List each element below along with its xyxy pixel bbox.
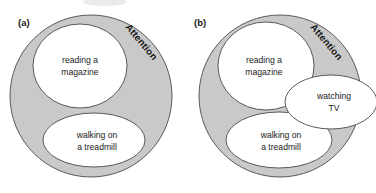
reading-a-magazine-line2-b: magazine bbox=[245, 67, 282, 77]
reading-a-magazine-line2-a: magazine bbox=[61, 67, 98, 77]
walking-on-a-treadmill-line2-a: a treadmill bbox=[77, 142, 117, 152]
panel-a-label: (a) bbox=[18, 17, 30, 28]
panel-b: (b) Attention reading a magazine walking… bbox=[188, 0, 376, 193]
walking-on-a-treadmill-line2-b: a treadmill bbox=[261, 142, 301, 152]
reading-a-magazine-line1-b: reading a bbox=[246, 55, 282, 65]
panel-b-label: (b) bbox=[194, 17, 206, 28]
reading-a-magazine-line1-a: reading a bbox=[62, 55, 98, 65]
watching-tv-line1-b: watching bbox=[316, 91, 351, 101]
watching-tv-ellipse-b[interactable] bbox=[285, 75, 376, 129]
scan-artifact-top bbox=[83, 0, 127, 6]
panel-a: (a) Attention reading a magazine walking… bbox=[0, 0, 188, 193]
concept-diagram-figure: (a) Attention reading a magazine walking… bbox=[0, 0, 376, 193]
reading-a-magazine-circle-a[interactable] bbox=[33, 24, 127, 108]
walking-on-a-treadmill-line1-a: walking on bbox=[76, 130, 118, 140]
watching-tv-line2-b: TV bbox=[329, 103, 340, 113]
walking-on-a-treadmill-line1-b: walking on bbox=[260, 130, 302, 140]
walking-on-a-treadmill-ellipse-a[interactable] bbox=[43, 113, 145, 167]
